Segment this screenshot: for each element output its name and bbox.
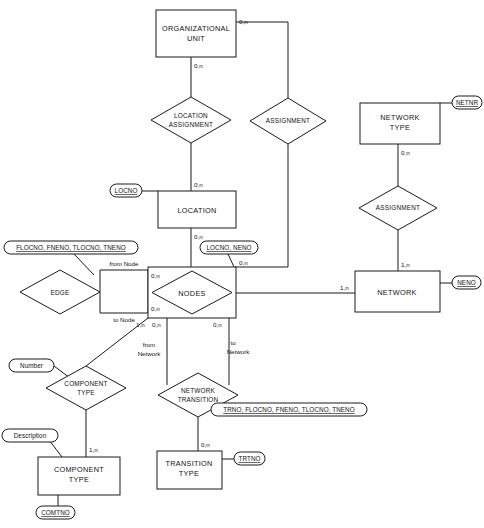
- cardinality-location-bottom: 0,n: [194, 233, 203, 240]
- relationship-component-type[interactable]: COMPONENT TYPE: [46, 366, 126, 410]
- attribute-trtno[interactable]: TRTNO: [234, 452, 265, 465]
- connector-lines: [46, 22, 452, 506]
- entity-location-label-1: LOCATION: [177, 206, 216, 215]
- entity-network-label-1: NETWORK: [377, 288, 416, 297]
- attribute-netnr[interactable]: NETNR: [452, 96, 482, 109]
- relationship-network-transition-label-1: NETWORK: [181, 387, 216, 394]
- attribute-locno[interactable]: LOCNO: [110, 184, 142, 197]
- cardinality-org-bottom: 0,n: [194, 62, 203, 69]
- entity-location[interactable]: LOCATION: [158, 191, 236, 228]
- attribute-trtno-label: TRTNO: [238, 455, 260, 462]
- entity-transition-type[interactable]: TRANSITION TYPE: [157, 451, 222, 489]
- cardinality-nettype-bottom: 0,n: [401, 149, 410, 156]
- entity-network[interactable]: NETWORK: [355, 271, 440, 312]
- relationship-location-assignment[interactable]: LOCATION ASSIGNMENT: [151, 97, 231, 143]
- relationship-assignment-org-nodes-label: ASSIGNMENT: [266, 117, 310, 124]
- attribute-edge-key[interactable]: FLOCNO, FNENO, TLOCNO, TNENO: [4, 241, 138, 254]
- entity-organizational-unit-label-2: UNIT: [187, 34, 205, 43]
- er-diagram-canvas: ORGANIZATIONAL UNIT LOCATION NETWORK TYP…: [0, 0, 484, 528]
- attribute-locno-label: LOCNO: [115, 187, 138, 194]
- entity-organizational-unit-label-1: ORGANIZATIONAL: [162, 24, 230, 33]
- cardinality-org-right: 0,n: [239, 18, 248, 25]
- attribute-description-label: Description: [14, 432, 47, 440]
- relationship-network-transition-label-2: TRANSITION: [178, 396, 219, 403]
- attribute-description[interactable]: Description: [2, 429, 58, 442]
- relationship-assignment-network-label: ASSIGNMENT: [376, 204, 420, 211]
- attribute-transition-key[interactable]: TRNO, FLOCNO, FNENO, TLOCNO, TNENO: [211, 403, 367, 416]
- role-to-network-1: to: [230, 339, 236, 346]
- attribute-netnr-label: NETNR: [456, 99, 479, 106]
- cardinality-nodes-bottom-from: 0,n: [152, 321, 161, 328]
- role-from-network-2: Network: [138, 350, 162, 357]
- attribute-transition-key-label: TRNO, FLOCNO, FNENO, TLOCNO, TNENO: [223, 406, 355, 413]
- entity-network-type-label-1: NETWORK: [380, 113, 419, 122]
- entity-network-type-label-2: TYPE: [390, 123, 410, 132]
- entity-component-type-label-1: COMPONENT: [54, 465, 104, 474]
- attribute-neno-label: NENO: [457, 279, 476, 286]
- cardinality-edge-to: 0,n: [151, 305, 160, 312]
- cardinality-transition-entity-top: 0,n: [201, 441, 210, 448]
- relationship-assignment-network[interactable]: ASSIGNMENT: [359, 186, 437, 230]
- cardinality-nodes-bottom-comp: 1,n: [136, 321, 145, 328]
- cardinality-nodes-bottom-to: 0,n: [213, 321, 222, 328]
- relationship-component-type-label-2: TYPE: [77, 389, 95, 396]
- relationship-location-assignment-label-2: ASSIGNMENT: [169, 121, 213, 128]
- line-locnoneno-to-nodes: [228, 254, 234, 267]
- entity-network-type[interactable]: NETWORK TYPE: [360, 103, 440, 144]
- cardinality-edge-from: 0,n: [151, 272, 160, 279]
- relationship-location-assignment-diamond[interactable]: [151, 97, 231, 143]
- attribute-comtno[interactable]: COMTNO: [36, 506, 75, 519]
- entity-nodes-label-1: NODES: [178, 289, 205, 298]
- role-from-network-1: from: [143, 341, 155, 348]
- attribute-edge-key-label: FLOCNO, FNENO, TLOCNO, TNENO: [16, 244, 126, 251]
- relationship-assignment-org-nodes[interactable]: ASSIGNMENT: [250, 98, 326, 144]
- entity-transition-type-label-1: TRANSITION: [165, 459, 212, 468]
- attribute-neno[interactable]: NENO: [452, 276, 481, 289]
- attribute-locno-neno-label: LOCNO, NENO: [206, 244, 251, 251]
- attribute-comtno-label: COMTNO: [41, 509, 70, 516]
- cardinality-component-entity-top: 1,n: [89, 446, 98, 453]
- entity-component-type[interactable]: COMPONENT TYPE: [38, 457, 120, 495]
- relationship-location-assignment-label-1: LOCATION: [174, 112, 208, 119]
- relationship-component-type-label-1: COMPONENT: [64, 380, 107, 387]
- relationship-edge-label: EDGE: [51, 289, 70, 296]
- relationship-edge[interactable]: EDGE: [20, 270, 100, 314]
- entity-transition-type-label-2: TYPE: [179, 469, 199, 478]
- attribute-locno-neno[interactable]: LOCNO, NENO: [200, 241, 258, 254]
- role-to-network-2: Network: [227, 348, 251, 355]
- entity-nodes[interactable]: NODES: [148, 267, 236, 318]
- cardinality-labels: 0,n 0,n 0,n 0,n 0,n 0,n 0,n 1,n 0,n 0,n …: [89, 18, 410, 453]
- entity-organizational-unit[interactable]: ORGANIZATIONAL UNIT: [156, 10, 236, 57]
- entity-component-type-label-2: TYPE: [69, 475, 89, 484]
- role-to-node: to Node: [113, 316, 135, 323]
- attribute-number[interactable]: Number: [9, 359, 54, 372]
- attribute-number-label: Number: [20, 362, 43, 369]
- cardinality-network-left: 1,n: [340, 284, 349, 291]
- cardinality-nodes-right-assignment: 0,n: [239, 259, 248, 266]
- relationship-component-type-diamond[interactable]: [46, 366, 126, 410]
- cardinality-location-top: 0,n: [194, 181, 203, 188]
- line-edgeattr-to-edge: [74, 254, 94, 275]
- cardinality-network-top: 1,n: [401, 261, 410, 268]
- role-from-node: from Node: [110, 260, 139, 267]
